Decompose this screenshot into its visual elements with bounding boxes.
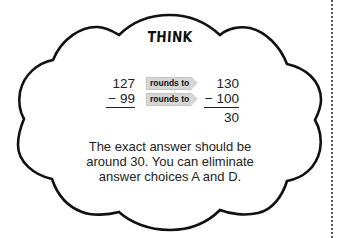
rounds-to-label-1: rounds to	[146, 77, 191, 90]
original-number-1: 127	[108, 76, 135, 91]
dotted-margin-rule	[331, 0, 333, 238]
rounds-to-arrow-2: rounds to	[146, 93, 198, 105]
arrow-right-icon	[191, 76, 198, 90]
explanation-line-2: around 30. You can eliminate	[70, 154, 270, 169]
estimated-difference: 30	[210, 110, 239, 125]
cloud-outline	[18, 15, 321, 230]
arrow-right-icon	[191, 92, 198, 106]
explanation-text: The exact answer should be around 30. Yo…	[70, 139, 270, 184]
original-number-2: − 99	[106, 92, 135, 108]
rounded-number-1: 130	[200, 76, 239, 91]
explanation-line-3: answer choices A and D.	[70, 169, 270, 184]
explanation-line-1: The exact answer should be	[70, 139, 270, 154]
rounds-to-arrow-1: rounds to	[146, 77, 198, 89]
think-title: THINK	[145, 28, 195, 46]
rounds-to-label-2: rounds to	[146, 93, 191, 106]
rounded-number-2: − 100	[204, 92, 239, 108]
